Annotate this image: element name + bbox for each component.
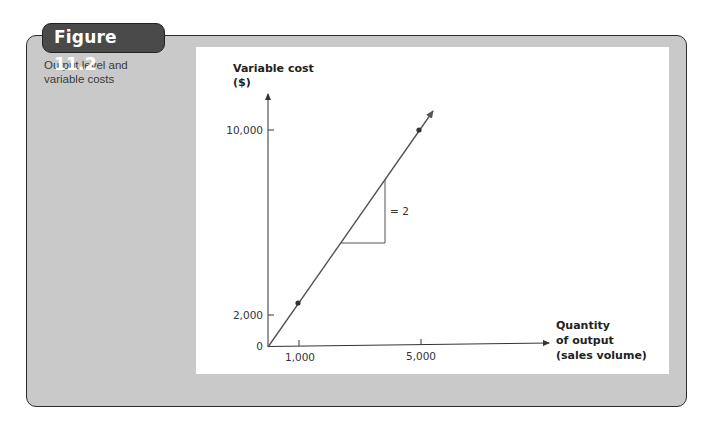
- data-point-1000-2000: [295, 300, 300, 305]
- x-axis-title-line-2: of output: [556, 334, 614, 347]
- x-axis-title-line-3: (sales volume): [556, 349, 647, 362]
- slope-annotation: = 2: [390, 205, 409, 217]
- y-tick-label-2000: 2,000: [233, 309, 263, 321]
- variable-cost-line: [268, 111, 433, 347]
- origin-label: 0: [256, 340, 263, 352]
- x-axis-title-line-1: Quantity: [556, 319, 610, 332]
- y-axis-title-line-1: Variable cost: [233, 62, 314, 75]
- figure-label: Figure 11.2: [42, 23, 165, 53]
- y-axis-title-line-2: ($): [233, 76, 251, 89]
- data-point-5000-10000: [416, 127, 421, 132]
- y-tick-label-10000: 10,000: [226, 124, 263, 136]
- x-tick-label-1000: 1,000: [285, 351, 315, 363]
- x-axis: [268, 343, 549, 347]
- line-chart: 10,000 2,000 0 1,000 5,000 Variable cost…: [0, 0, 705, 430]
- x-tick-label-5000: 5,000: [406, 350, 436, 362]
